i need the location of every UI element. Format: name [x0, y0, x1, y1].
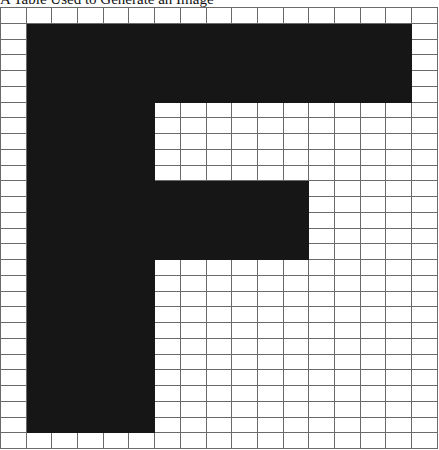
- grid-cell-empty: [129, 433, 155, 449]
- grid-cell-filled: [129, 212, 155, 228]
- grid-cell-filled: [386, 23, 412, 39]
- grid-cell-empty: [386, 291, 412, 307]
- grid-cell-empty: [412, 386, 438, 402]
- grid-cell-empty: [360, 8, 386, 24]
- grid-cell-empty: [257, 149, 283, 165]
- grid-cell-empty: [155, 291, 181, 307]
- grid-cell-empty: [155, 354, 181, 370]
- grid-cell-empty: [412, 118, 438, 134]
- grid-cell-empty: [257, 291, 283, 307]
- grid-cell-empty: [232, 102, 258, 118]
- grid-row: [1, 354, 438, 370]
- grid-cell-filled: [309, 86, 335, 102]
- grid-row: [1, 212, 438, 228]
- grid-cell-filled: [26, 86, 52, 102]
- grid-cell-empty: [386, 354, 412, 370]
- grid-cell-filled: [232, 181, 258, 197]
- grid-cell-filled: [283, 86, 309, 102]
- grid-cell-filled: [78, 354, 104, 370]
- grid-cell-empty: [309, 181, 335, 197]
- grid-cell-filled: [129, 86, 155, 102]
- grid-cell-filled: [180, 244, 206, 260]
- grid-cell-empty: [412, 86, 438, 102]
- grid-cell-filled: [78, 228, 104, 244]
- grid-cell-filled: [78, 370, 104, 386]
- grid-cell-empty: [1, 165, 27, 181]
- grid-cell-empty: [309, 118, 335, 134]
- grid-cell-filled: [52, 323, 78, 339]
- grid-cell-filled: [103, 55, 129, 71]
- grid-cell-empty: [386, 433, 412, 449]
- grid-cell-filled: [334, 86, 360, 102]
- grid-row: [1, 291, 438, 307]
- grid-cell-empty: [386, 244, 412, 260]
- grid-cell-filled: [26, 39, 52, 55]
- grid-cell-empty: [360, 307, 386, 323]
- grid-cell-filled: [103, 417, 129, 433]
- grid-cell-empty: [412, 102, 438, 118]
- grid-cell-empty: [1, 291, 27, 307]
- grid-cell-filled: [232, 228, 258, 244]
- grid-cell-filled: [78, 165, 104, 181]
- grid-cell-empty: [360, 165, 386, 181]
- grid-cell-filled: [52, 181, 78, 197]
- grid-cell-filled: [103, 307, 129, 323]
- grid-cell-empty: [334, 386, 360, 402]
- grid-cell-empty: [283, 323, 309, 339]
- grid-cell-filled: [180, 197, 206, 213]
- grid-cell-empty: [334, 212, 360, 228]
- grid-cell-empty: [283, 386, 309, 402]
- grid-cell-filled: [283, 55, 309, 71]
- grid-cell-filled: [129, 338, 155, 354]
- grid-row: [1, 338, 438, 354]
- grid-row: [1, 323, 438, 339]
- grid-cell-filled: [52, 291, 78, 307]
- grid-cell-filled: [52, 39, 78, 55]
- grid-cell-filled: [283, 23, 309, 39]
- grid-cell-empty: [1, 323, 27, 339]
- grid-cell-filled: [52, 260, 78, 276]
- grid-row: [1, 71, 438, 87]
- grid-cell-empty: [1, 244, 27, 260]
- grid-cell-filled: [26, 291, 52, 307]
- grid-cell-empty: [412, 39, 438, 55]
- grid-cell-filled: [52, 55, 78, 71]
- grid-cell-empty: [206, 165, 232, 181]
- grid-cell-empty: [232, 307, 258, 323]
- grid-cell-filled: [26, 275, 52, 291]
- grid-cell-empty: [206, 307, 232, 323]
- grid-cell-empty: [1, 197, 27, 213]
- grid-cell-filled: [26, 165, 52, 181]
- grid-cell-empty: [309, 134, 335, 150]
- grid-cell-filled: [129, 386, 155, 402]
- grid-cell-empty: [283, 433, 309, 449]
- grid-cell-filled: [257, 71, 283, 87]
- grid-row: [1, 244, 438, 260]
- grid-cell-filled: [103, 338, 129, 354]
- grid-cell-empty: [360, 275, 386, 291]
- grid-cell-filled: [52, 244, 78, 260]
- grid-cell-empty: [257, 165, 283, 181]
- grid-cell-filled: [129, 228, 155, 244]
- grid-cell-filled: [283, 212, 309, 228]
- grid-cell-filled: [129, 39, 155, 55]
- grid-cell-filled: [52, 118, 78, 134]
- grid-cell-filled: [232, 23, 258, 39]
- grid-cell-empty: [412, 370, 438, 386]
- grid-cell-empty: [206, 401, 232, 417]
- grid-cell-empty: [283, 165, 309, 181]
- grid-cell-filled: [78, 307, 104, 323]
- grid-cell-empty: [334, 134, 360, 150]
- grid-cell-empty: [180, 323, 206, 339]
- grid-cell-empty: [257, 134, 283, 150]
- grid-cell-filled: [283, 244, 309, 260]
- grid-cell-empty: [386, 323, 412, 339]
- grid-cell-empty: [180, 118, 206, 134]
- grid-cell-empty: [283, 291, 309, 307]
- grid-cell-filled: [103, 228, 129, 244]
- grid-cell-empty: [257, 8, 283, 24]
- grid-cell-empty: [180, 134, 206, 150]
- grid-cell-empty: [360, 149, 386, 165]
- grid-cell-filled: [26, 323, 52, 339]
- grid-cell-empty: [412, 8, 438, 24]
